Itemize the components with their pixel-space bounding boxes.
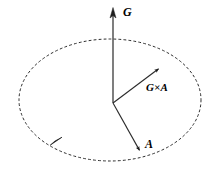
vector-label-a: A (145, 138, 153, 150)
orbit-direction-arrow (50, 137, 62, 145)
vector-label-g-cross-a: G×A (146, 82, 168, 93)
vector-diagram-figure: G G×A A (0, 0, 216, 174)
diagram-canvas (0, 0, 216, 174)
vector-a-shaft (113, 103, 140, 150)
vector-label-g: G (123, 6, 132, 18)
precession-circle (19, 39, 201, 161)
